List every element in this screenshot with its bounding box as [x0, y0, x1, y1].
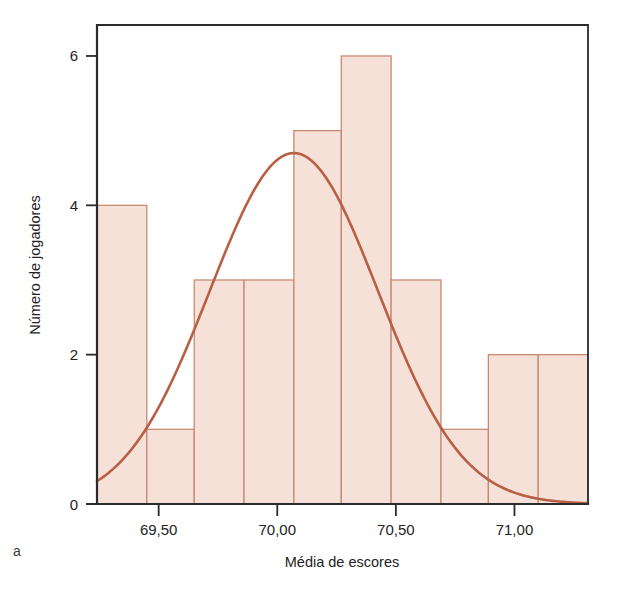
x-tick-label: 71,00	[496, 521, 534, 538]
histogram-bar	[294, 131, 341, 504]
x-tick-label: 70,00	[258, 521, 296, 538]
histogram-bar	[538, 355, 588, 504]
panel-letter: a	[13, 543, 21, 559]
y-axis-ticks: 0246	[70, 47, 97, 512]
histogram-figure: 0246 69,5070,0070,5071,00 Média de escor…	[0, 0, 617, 604]
y-tick-label: 2	[70, 346, 78, 363]
y-tick-label: 4	[70, 197, 78, 214]
histogram-bar	[391, 280, 441, 504]
histogram-bar	[341, 56, 391, 504]
y-tick-label: 6	[70, 47, 78, 64]
x-axis-ticks: 69,5070,0070,5071,00	[140, 504, 533, 538]
x-axis-title: Média de escores	[285, 554, 399, 570]
y-tick-label: 0	[70, 496, 78, 513]
histogram-bar	[488, 355, 538, 504]
y-axis-title: Número de jogadores	[27, 195, 43, 334]
x-tick-label: 70,50	[377, 521, 415, 538]
histogram-bar	[147, 429, 194, 504]
x-tick-label: 69,50	[140, 521, 178, 538]
histogram-svg: 0246 69,5070,0070,5071,00 Média de escor…	[0, 0, 617, 604]
histogram-bar	[244, 280, 294, 504]
